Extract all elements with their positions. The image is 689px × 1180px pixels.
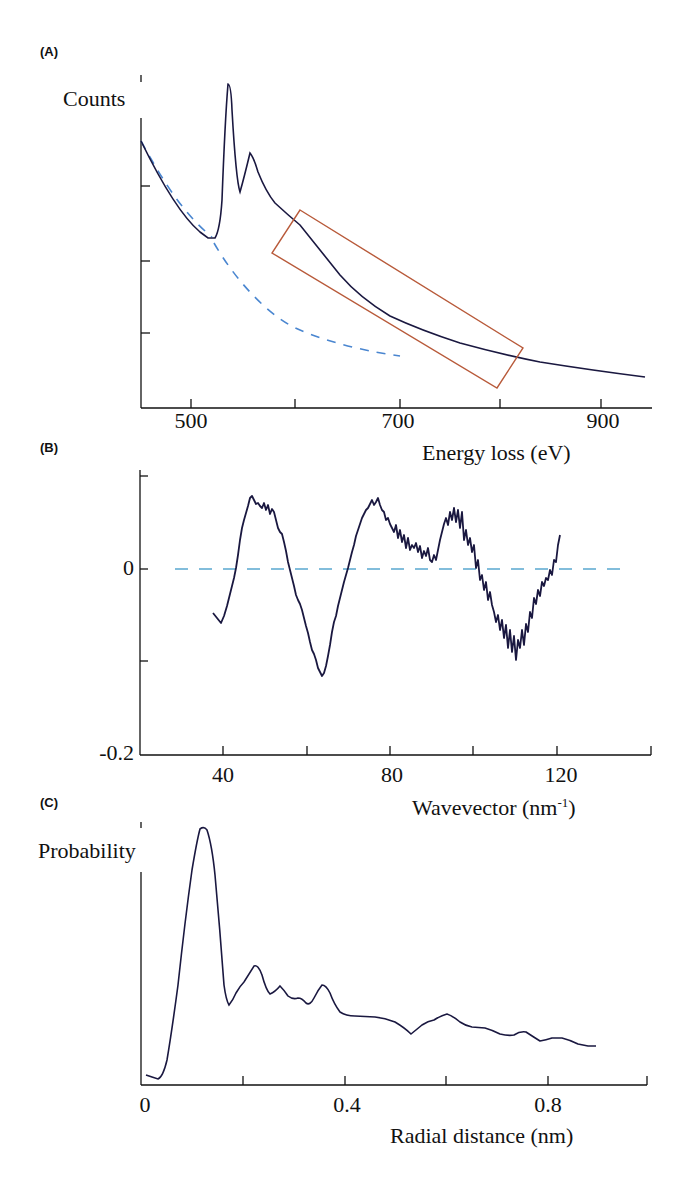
panel-a-spectrum-curve (141, 84, 645, 377)
panel-b-oscillation-curve (213, 496, 560, 676)
figure-canvas (0, 0, 689, 1180)
panel-c-chart (141, 822, 647, 1085)
panel-a-chart (141, 75, 652, 408)
panel-c-ticks (243, 1076, 647, 1085)
panel-a-ticks (141, 186, 601, 408)
panel-c-probability-curve (146, 828, 596, 1079)
panel-b-chart (140, 470, 651, 755)
panel-b-ticks (140, 476, 651, 755)
